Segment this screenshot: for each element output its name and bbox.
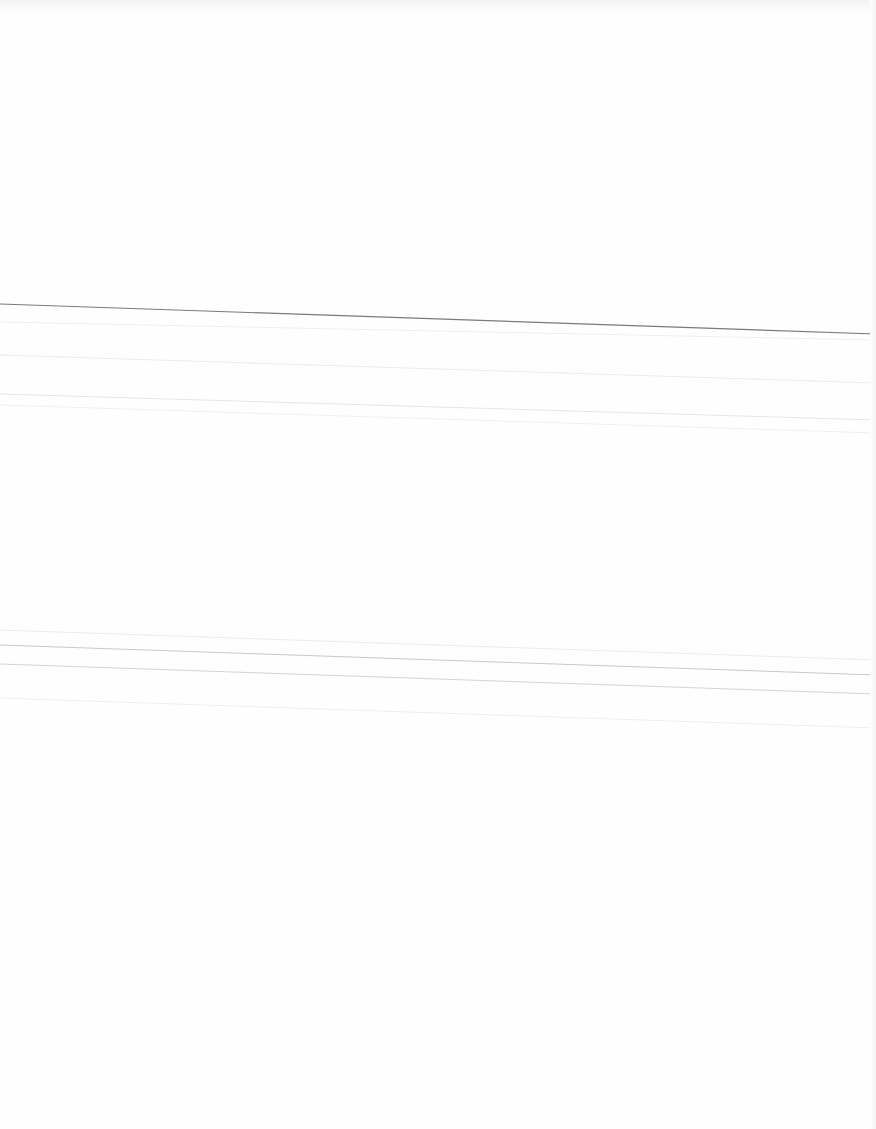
- blank-document-page: [0, 0, 876, 1129]
- rule-line: [0, 355, 876, 383]
- rule-line: [0, 698, 876, 728]
- rule-line: [0, 664, 876, 694]
- horizontal-rules: [0, 0, 876, 1129]
- rule-line: [0, 394, 876, 420]
- rule-line: [0, 405, 876, 433]
- rule-line: [0, 304, 876, 334]
- rule-line: [0, 630, 876, 660]
- rule-line: [0, 322, 876, 340]
- scan-right-edge: [870, 0, 876, 1129]
- rule-line: [0, 645, 876, 675]
